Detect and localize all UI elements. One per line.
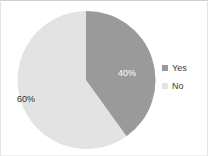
- legend-item-yes[interactable]: Yes: [162, 59, 208, 77]
- legend-item-no[interactable]: No: [162, 77, 208, 95]
- legend-swatch-icon-no: [162, 83, 168, 89]
- legend-swatch-icon-yes: [162, 65, 168, 71]
- pie-label-no: 60%: [17, 94, 35, 104]
- chart-legend: Yes No: [162, 59, 208, 95]
- pie-plot-area: 40% 60%: [1, 5, 157, 155]
- legend-label-no: No: [172, 82, 184, 91]
- pie-chart-svg: [1, 5, 157, 155]
- legend-label-yes: Yes: [172, 64, 187, 73]
- chart-figure: 40% 60% Yes No: [0, 0, 208, 156]
- pie-label-yes: 40%: [118, 68, 136, 78]
